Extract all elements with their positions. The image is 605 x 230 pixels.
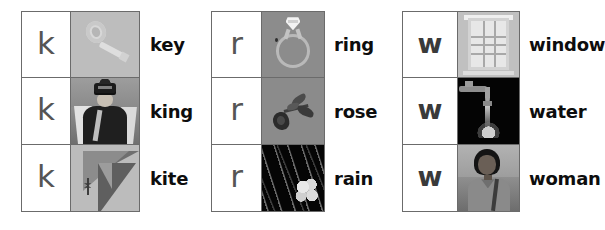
letter-cell-woman: w [403, 145, 458, 211]
picture-grid-k: k k [21, 11, 140, 212]
letter-glyph: k [37, 28, 55, 59]
word-label: woman [522, 145, 605, 212]
table-row: k [22, 78, 139, 144]
letter-cell-water: w [403, 78, 458, 143]
picture-grid-w: w [402, 11, 520, 212]
word-label: key [143, 11, 193, 78]
picture-cell-water [458, 78, 519, 143]
picture-cell-kite [71, 145, 139, 211]
rose-icon [262, 78, 324, 143]
picture-cell-woman [458, 145, 519, 211]
word-label: king [143, 78, 193, 145]
word-label-list-w: window water woman [522, 11, 605, 212]
rain-icon [262, 145, 324, 211]
table-row: w [403, 78, 519, 144]
letter-cell-rose: r [212, 78, 262, 143]
word-label-text: woman [529, 168, 601, 189]
letter-cell-ring: r [212, 12, 262, 77]
picture-cell-rose [262, 78, 324, 143]
table-row: r [212, 78, 324, 144]
table-row: w [403, 12, 519, 78]
key-icon [71, 12, 139, 77]
word-label-text: water [529, 101, 586, 122]
letter-cell-key: k [22, 12, 71, 77]
letter-glyph: w [418, 163, 443, 190]
word-label-text: kite [150, 168, 188, 189]
letter-cell-king: k [22, 78, 71, 143]
word-label-text: king [150, 101, 193, 122]
word-label-text: key [150, 34, 185, 55]
letter-cell-window: w [403, 12, 458, 77]
woman-icon [458, 145, 519, 211]
picture-cell-king [71, 78, 139, 143]
word-label-list-k: key king kite [143, 11, 193, 212]
word-label-text: rose [334, 101, 377, 122]
table-row: w [403, 145, 519, 211]
letter-glyph: w [418, 96, 443, 123]
table-row: r [212, 12, 324, 78]
word-label: ring [327, 11, 377, 78]
word-label-list-r: ring rose rain [327, 11, 377, 212]
table-row: r [212, 145, 324, 211]
word-label-text: rain [334, 168, 373, 189]
letter-glyph: k [37, 94, 55, 125]
window-icon [458, 12, 519, 77]
table-row: k [22, 145, 139, 211]
letter-glyph: w [418, 30, 443, 57]
ring-icon [262, 12, 324, 77]
picture-grid-r: r r [211, 11, 325, 212]
word-label: kite [143, 145, 193, 212]
water-icon [458, 78, 519, 143]
letter-glyph: k [37, 161, 55, 192]
letter-glyph: r [230, 161, 243, 192]
king-icon [71, 78, 139, 143]
letter-glyph: r [230, 28, 243, 59]
word-label-text: window [529, 34, 605, 55]
picture-cell-window [458, 12, 519, 77]
word-label: rain [327, 145, 377, 212]
letter-cell-rain: r [212, 145, 262, 211]
word-label: rose [327, 78, 377, 145]
word-label: window [522, 11, 605, 78]
picture-cell-ring [262, 12, 324, 77]
letter-cell-kite: k [22, 145, 71, 211]
kite-icon [71, 145, 139, 211]
word-label-text: ring [334, 34, 374, 55]
picture-cell-rain [262, 145, 324, 211]
picture-cell-key [71, 12, 139, 77]
table-row: k [22, 12, 139, 78]
word-label: water [522, 78, 605, 145]
letter-glyph: r [230, 94, 243, 125]
